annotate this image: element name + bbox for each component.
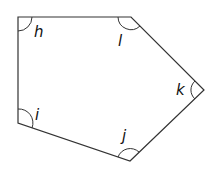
pentagon-diagram: h l k j i xyxy=(0,0,216,177)
angle-label-k: k xyxy=(176,81,186,99)
angle-arc-k xyxy=(191,81,195,99)
angle-label-h: h xyxy=(34,23,44,41)
angle-label-l: l xyxy=(118,32,123,50)
angle-arc-h xyxy=(18,17,32,31)
angle-label-i: i xyxy=(35,106,40,124)
angle-label-j: j xyxy=(120,127,127,145)
